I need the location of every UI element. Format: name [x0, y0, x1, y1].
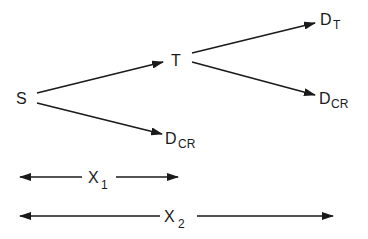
- node-d-cr-upper-main: D: [319, 90, 331, 107]
- dimension-x2-subscript: 2: [178, 217, 185, 231]
- node-d-cr-lower-main: D: [165, 130, 177, 147]
- dimension-x2: X 2: [20, 208, 333, 231]
- node-d-cr-upper-subscript: CR: [331, 97, 349, 111]
- edge-t-to-d-t: [192, 23, 315, 53]
- node-s-label: S: [16, 90, 27, 107]
- node-d-cr-upper: D CR: [319, 90, 349, 111]
- edge-t-to-d-cr-upper: [192, 62, 315, 95]
- node-d-t: D T: [320, 11, 341, 32]
- node-t-label: T: [171, 52, 181, 69]
- edge-s-to-t: [37, 62, 163, 93]
- branching-diagram: S T D T D CR D CR X 1 X 2: [0, 0, 368, 239]
- node-d-cr-lower-subscript: CR: [178, 137, 196, 151]
- node-s: S: [16, 90, 27, 107]
- node-d-t-main: D: [320, 11, 332, 28]
- dimension-x1-subscript: 1: [101, 178, 108, 192]
- dimension-x1-main: X: [88, 169, 99, 186]
- dimension-x1: X 1: [20, 169, 178, 192]
- edge-s-to-d-cr-lower: [37, 103, 162, 134]
- node-d-t-subscript: T: [333, 18, 341, 32]
- node-d-cr-lower: D CR: [165, 130, 196, 151]
- dimension-x2-main: X: [164, 208, 175, 225]
- node-t: T: [171, 52, 181, 69]
